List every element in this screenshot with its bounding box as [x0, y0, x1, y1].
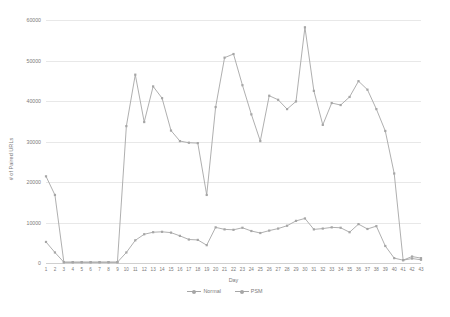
x-axis-tick-label: 26 — [267, 267, 272, 272]
data-point-marker — [384, 130, 386, 132]
data-point-marker — [206, 194, 208, 196]
x-axis-tick-label: 28 — [285, 267, 290, 272]
y-axis-tick-label: 60000 — [27, 17, 41, 23]
data-point-marker — [393, 172, 395, 174]
x-axis-tick-label: 9 — [116, 267, 119, 272]
data-point-marker — [152, 85, 154, 87]
data-point-marker — [152, 231, 154, 233]
data-point-marker — [322, 227, 324, 229]
x-axis-tick-label: 2 — [54, 267, 57, 272]
data-point-marker — [206, 244, 208, 246]
data-point-marker — [107, 261, 109, 263]
x-axis-tick-label: 15 — [168, 267, 173, 272]
data-point-marker — [295, 220, 297, 222]
y-axis-tick-label: 50000 — [27, 58, 41, 64]
data-point-marker — [420, 259, 422, 261]
data-point-marker — [223, 57, 225, 59]
x-axis-tick-label: 36 — [356, 267, 361, 272]
legend-item-psm[interactable]: PSM — [235, 289, 263, 294]
x-axis-tick-label: 4 — [72, 267, 75, 272]
series-line-normal — [46, 218, 421, 262]
data-point-marker — [259, 232, 261, 234]
data-point-marker — [268, 230, 270, 232]
x-axis-line — [46, 263, 421, 264]
x-axis-tick-label: 29 — [293, 267, 298, 272]
data-point-marker — [411, 255, 413, 257]
data-point-marker — [215, 226, 217, 228]
data-point-marker — [286, 108, 288, 110]
plot-area: 0100002000030000400005000060000123456789… — [46, 20, 421, 263]
data-point-marker — [384, 245, 386, 247]
data-point-marker — [232, 53, 234, 55]
data-point-marker — [143, 233, 145, 235]
data-point-marker — [357, 80, 359, 82]
data-point-marker — [402, 259, 404, 261]
data-point-marker — [259, 140, 261, 142]
x-axis-tick-label: 24 — [249, 267, 254, 272]
chart-container: # of Paired URLs 01000020000300004000050… — [0, 0, 450, 317]
legend-label: Normal — [203, 289, 220, 294]
x-axis-tick-label: 33 — [329, 267, 334, 272]
data-point-marker — [188, 238, 190, 240]
x-axis-tick-label: 11 — [133, 267, 138, 272]
data-point-marker — [348, 231, 350, 233]
x-axis-tick-label: 6 — [89, 267, 92, 272]
data-point-marker — [277, 227, 279, 229]
x-axis-tick-label: 39 — [383, 267, 388, 272]
data-point-marker — [268, 95, 270, 97]
data-point-marker — [188, 142, 190, 144]
data-point-marker — [116, 261, 118, 263]
data-point-marker — [90, 261, 92, 263]
x-axis-tick-label: 3 — [63, 267, 66, 272]
data-point-marker — [366, 89, 368, 91]
x-axis-tick-label: 16 — [177, 267, 182, 272]
data-point-marker — [161, 231, 163, 233]
data-point-marker — [250, 113, 252, 115]
x-axis-tick-label: 17 — [186, 267, 191, 272]
data-point-marker — [313, 228, 315, 230]
data-point-marker — [143, 121, 145, 123]
chart-legend: Normal PSM — [0, 289, 450, 294]
x-axis-tick-label: 21 — [222, 267, 227, 272]
x-axis-tick-label: 27 — [276, 267, 281, 272]
x-axis-tick-label: 12 — [142, 267, 147, 272]
data-point-marker — [63, 261, 65, 263]
legend-marker-icon — [235, 289, 249, 294]
data-point-marker — [223, 228, 225, 230]
y-axis-tick-label: 30000 — [27, 139, 41, 145]
x-axis-tick-label: 40 — [392, 267, 397, 272]
legend-marker-icon — [187, 289, 201, 294]
x-axis-tick-label: 8 — [107, 267, 110, 272]
data-point-marker — [197, 142, 199, 144]
y-axis-tick-label: 20000 — [27, 179, 41, 185]
data-point-marker — [54, 251, 56, 253]
legend-label: PSM — [251, 289, 263, 294]
x-axis-tick-label: 14 — [160, 267, 165, 272]
y-axis-tick-label: 0 — [38, 260, 41, 266]
x-axis-tick-label: 25 — [258, 267, 263, 272]
data-point-marker — [179, 140, 181, 142]
legend-item-normal[interactable]: Normal — [187, 289, 220, 294]
x-axis-tick-label: 5 — [80, 267, 83, 272]
data-point-marker — [45, 175, 47, 177]
y-axis-tick-label: 10000 — [27, 220, 41, 226]
data-point-marker — [72, 261, 74, 263]
x-axis-tick-label: 19 — [204, 267, 209, 272]
data-point-marker — [295, 100, 297, 102]
data-point-marker — [411, 257, 413, 259]
data-point-marker — [277, 99, 279, 101]
data-point-marker — [170, 232, 172, 234]
x-axis-tick-label: 34 — [338, 267, 343, 272]
data-point-marker — [250, 230, 252, 232]
x-axis-tick-label: 32 — [320, 267, 325, 272]
data-point-marker — [215, 106, 217, 108]
x-axis-tick-label: 35 — [347, 267, 352, 272]
y-axis-tick-label: 40000 — [27, 98, 41, 104]
x-axis-tick-label: 1 — [45, 267, 48, 272]
data-point-marker — [366, 228, 368, 230]
data-point-marker — [331, 226, 333, 228]
x-axis-tick-label: 7 — [98, 267, 101, 272]
data-point-marker — [286, 225, 288, 227]
series-line-psm — [46, 27, 421, 262]
x-axis-title: Day — [46, 277, 421, 283]
